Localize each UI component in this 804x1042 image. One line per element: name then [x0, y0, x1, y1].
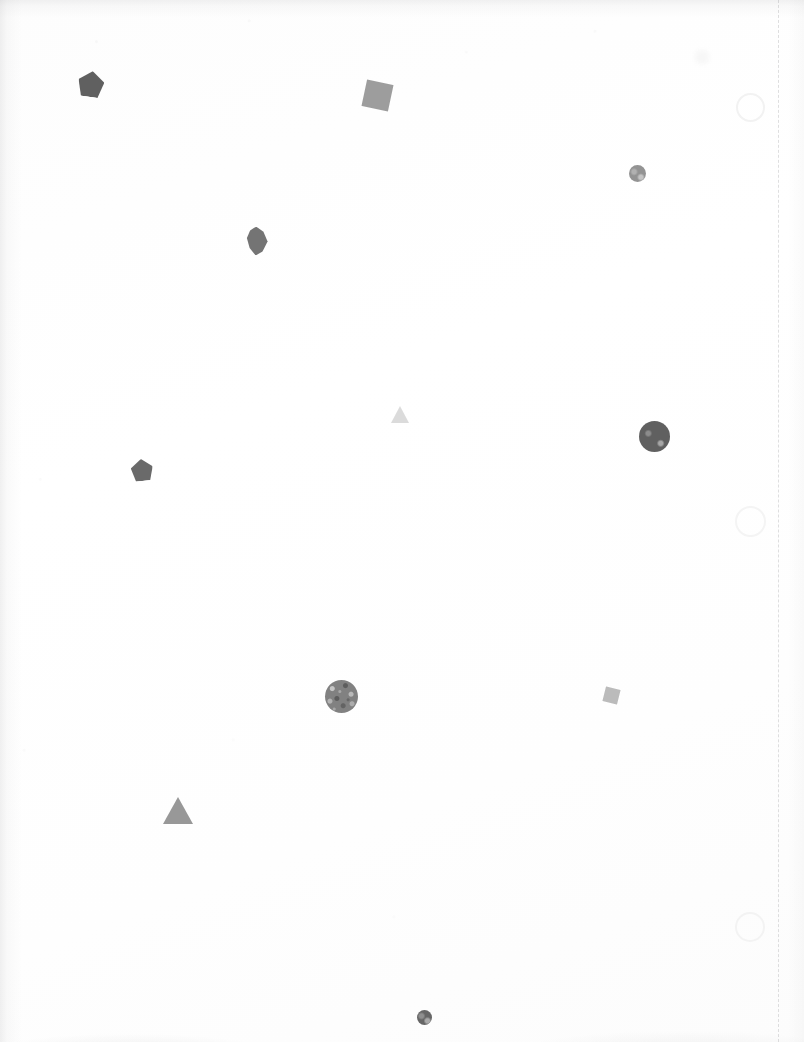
shape-scatter-canvas — [0, 0, 804, 1042]
ghost-circle-icon — [736, 93, 765, 122]
ghost-circle-icon — [735, 506, 766, 537]
square-shape — [602, 686, 620, 704]
triangle-shape — [391, 406, 409, 423]
paper-background — [0, 0, 804, 1042]
dashed-vertical-guide — [778, 0, 779, 1042]
ghost-circle-icon — [735, 912, 765, 942]
scan-grain-texture — [0, 0, 804, 1042]
circle-shape — [639, 421, 670, 452]
ghost-smudge-mark — [695, 50, 709, 64]
square-shape — [361, 79, 393, 111]
pentagon-shape — [76, 69, 105, 98]
pentagon-shape — [130, 458, 154, 482]
blob-shape — [246, 227, 269, 256]
triangle-shape — [163, 797, 193, 824]
circle-shape — [629, 165, 646, 182]
circle-shape — [417, 1010, 432, 1025]
textured-circle-shape — [325, 680, 358, 713]
